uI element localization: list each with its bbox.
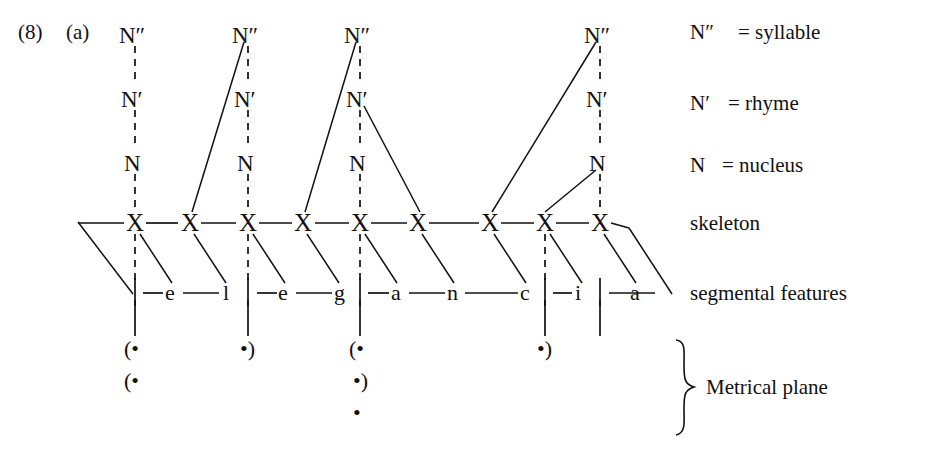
- segment-4: g: [334, 282, 345, 304]
- skeleton-slot-2: X: [181, 210, 199, 235]
- tier-label-skeleton: skeleton: [690, 213, 760, 234]
- segment-3: e: [278, 282, 288, 304]
- legend-text-rhyme: = rhyme: [728, 93, 799, 114]
- grid-mark-l1-s1: (•: [124, 338, 139, 360]
- skeleton-slot-1: X: [126, 210, 144, 235]
- nucleus-node-2: N: [237, 152, 254, 175]
- grid-mark-l1-s5: (•: [349, 338, 364, 360]
- legend-symbol-syllable: N″: [690, 22, 714, 43]
- grid-mark-l1-s3: •): [240, 338, 255, 360]
- skeleton-slot-6: X: [409, 210, 427, 235]
- skeleton-slot-8: X: [536, 210, 554, 235]
- segment-7: c: [520, 282, 530, 304]
- legend-text-nucleus: = nucleus: [722, 155, 803, 176]
- syllable-node-3: N″: [344, 24, 370, 47]
- skeleton-slot-9: X: [591, 210, 609, 235]
- skeleton-slot-4: X: [294, 210, 312, 235]
- tier-label-metrical: Metrical plane: [706, 377, 828, 398]
- rhyme-node-4: N′: [586, 88, 608, 111]
- grid-mark-l3-s5: •: [353, 402, 361, 424]
- syllable-node-4: N″: [584, 24, 610, 47]
- nucleus-node-1: N: [124, 152, 141, 175]
- tier-label-segmental: segmental features: [690, 283, 847, 304]
- syllable-node-1: N″: [119, 24, 145, 47]
- nucleus-node-4: N: [589, 152, 606, 175]
- legend-symbol-rhyme: N′: [690, 93, 710, 114]
- segment-6: n: [447, 282, 458, 304]
- syllable-node-2: N″: [232, 24, 258, 47]
- figure-part: (a): [66, 22, 89, 43]
- grid-mark-l1-s8: •): [537, 338, 552, 360]
- grid-mark-l2-s5: •): [353, 370, 368, 392]
- segment-5: a: [391, 282, 401, 304]
- grid-mark-l2-s1: (•: [124, 370, 139, 392]
- legend-text-syllable: = syllable: [738, 22, 820, 43]
- segment-1: e: [165, 282, 175, 304]
- figure-number: (8): [18, 22, 43, 43]
- nucleus-node-3: N: [349, 152, 366, 175]
- rhyme-node-2: N′: [234, 88, 256, 111]
- rhyme-node-3: N′: [346, 88, 368, 111]
- segment-9: a: [630, 282, 640, 304]
- skeleton-slot-5: X: [351, 210, 369, 235]
- skeleton-slot-3: X: [239, 210, 257, 235]
- skeleton-slot-7: X: [481, 210, 499, 235]
- segment-2: l: [223, 282, 229, 304]
- legend-symbol-nucleus: N: [690, 155, 705, 176]
- segment-8: i: [575, 282, 581, 304]
- figure-canvas: (8) (a) N″ N″ N″ N″ N′ N′ N′ N′ N N N N …: [0, 0, 932, 462]
- rhyme-node-1: N′: [121, 88, 143, 111]
